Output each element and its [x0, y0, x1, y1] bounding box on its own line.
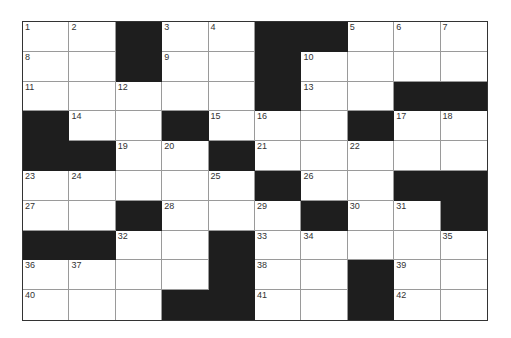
crossword-cell[interactable]: 33: [255, 231, 301, 261]
crossword-cell[interactable]: [301, 290, 347, 320]
crossword-cell[interactable]: 18: [441, 111, 487, 141]
clue-number: 20: [164, 142, 174, 151]
black-square: [69, 141, 115, 171]
crossword-cell[interactable]: [162, 231, 208, 261]
crossword-cell[interactable]: [348, 171, 394, 201]
clue-number: 5: [350, 23, 355, 32]
crossword-cell[interactable]: 22: [348, 141, 394, 171]
black-square: [394, 171, 440, 201]
crossword-cell[interactable]: 19: [116, 141, 162, 171]
black-square: [162, 111, 208, 141]
crossword-cell[interactable]: 24: [69, 171, 115, 201]
black-square: [255, 171, 301, 201]
clue-number: 11: [25, 83, 34, 92]
crossword-cell[interactable]: [69, 52, 115, 82]
crossword-cell[interactable]: 14: [69, 111, 115, 141]
clue-number: 29: [257, 202, 267, 211]
crossword-cell[interactable]: 2: [69, 22, 115, 52]
crossword-cell[interactable]: 39: [394, 260, 440, 290]
crossword-cell[interactable]: 9: [162, 52, 208, 82]
crossword-cell[interactable]: 29: [255, 201, 301, 231]
crossword-cell[interactable]: [441, 260, 487, 290]
crossword-cell[interactable]: 36: [23, 260, 69, 290]
crossword-cell[interactable]: 30: [348, 201, 394, 231]
clue-number: 18: [443, 112, 453, 121]
crossword-cell[interactable]: [69, 201, 115, 231]
crossword-cell[interactable]: 10: [301, 52, 347, 82]
crossword-cell[interactable]: [162, 171, 208, 201]
black-square: [116, 22, 162, 52]
clue-number: 26: [303, 172, 313, 181]
crossword-cell[interactable]: [116, 171, 162, 201]
clue-number: 14: [71, 112, 81, 121]
crossword-cell[interactable]: 26: [301, 171, 347, 201]
crossword-cell[interactable]: [348, 231, 394, 261]
crossword-cell[interactable]: [301, 141, 347, 171]
crossword-cell[interactable]: [162, 260, 208, 290]
crossword-cell[interactable]: 7: [441, 22, 487, 52]
crossword-cell[interactable]: [441, 141, 487, 171]
clue-number: 17: [396, 112, 406, 121]
crossword-cell[interactable]: 16: [255, 111, 301, 141]
black-square: [441, 201, 487, 231]
crossword-cell[interactable]: [116, 111, 162, 141]
crossword-cell[interactable]: 42: [394, 290, 440, 320]
crossword-cell[interactable]: [116, 290, 162, 320]
crossword-cell[interactable]: [348, 82, 394, 112]
crossword-cell[interactable]: [394, 231, 440, 261]
crossword-cell[interactable]: [209, 52, 255, 82]
crossword-cell[interactable]: 41: [255, 290, 301, 320]
crossword-cell[interactable]: 17: [394, 111, 440, 141]
crossword-cell[interactable]: 31: [394, 201, 440, 231]
crossword-cell[interactable]: 11: [23, 82, 69, 112]
black-square: [255, 52, 301, 82]
clue-number: 1: [25, 23, 30, 32]
crossword-cell[interactable]: [348, 52, 394, 82]
crossword-cell[interactable]: 37: [69, 260, 115, 290]
clue-number: 40: [25, 291, 35, 300]
clue-number: 27: [25, 202, 35, 211]
crossword-cell[interactable]: 32: [116, 231, 162, 261]
crossword-cell[interactable]: 8: [23, 52, 69, 82]
clue-number: 8: [25, 53, 30, 62]
crossword-cell[interactable]: 3: [162, 22, 208, 52]
crossword-cell[interactable]: 40: [23, 290, 69, 320]
black-square: [394, 82, 440, 112]
crossword-cell[interactable]: [69, 290, 115, 320]
clue-number: 37: [71, 261, 81, 270]
crossword-cell[interactable]: [301, 260, 347, 290]
crossword-cell[interactable]: [162, 82, 208, 112]
crossword-cell[interactable]: [301, 111, 347, 141]
crossword-cell[interactable]: 13: [301, 82, 347, 112]
crossword-cell[interactable]: 35: [441, 231, 487, 261]
crossword-cell[interactable]: [116, 260, 162, 290]
crossword-cell[interactable]: [209, 82, 255, 112]
crossword-cell[interactable]: 4: [209, 22, 255, 52]
black-square: [23, 141, 69, 171]
crossword-cell[interactable]: [441, 52, 487, 82]
crossword-cell[interactable]: [69, 82, 115, 112]
clue-number: 41: [257, 291, 267, 300]
black-square: [162, 290, 208, 320]
crossword-cell[interactable]: 21: [255, 141, 301, 171]
clue-number: 10: [303, 53, 313, 62]
crossword-cell[interactable]: [394, 52, 440, 82]
crossword-cell[interactable]: 6: [394, 22, 440, 52]
crossword-cell[interactable]: 25: [209, 171, 255, 201]
crossword-cell[interactable]: 5: [348, 22, 394, 52]
crossword-cell[interactable]: 12: [116, 82, 162, 112]
crossword-cell[interactable]: 34: [301, 231, 347, 261]
crossword-cell[interactable]: 15: [209, 111, 255, 141]
crossword-cell[interactable]: [441, 290, 487, 320]
clue-number: 12: [118, 83, 128, 92]
crossword-cell[interactable]: 1: [23, 22, 69, 52]
crossword-cell[interactable]: 20: [162, 141, 208, 171]
crossword-cell[interactable]: 23: [23, 171, 69, 201]
crossword-cell[interactable]: 27: [23, 201, 69, 231]
crossword-cell[interactable]: 38: [255, 260, 301, 290]
crossword-cell[interactable]: [394, 141, 440, 171]
clue-number: 15: [211, 112, 221, 121]
crossword-cell[interactable]: [209, 201, 255, 231]
crossword-cell[interactable]: 28: [162, 201, 208, 231]
clue-number: 30: [350, 202, 360, 211]
